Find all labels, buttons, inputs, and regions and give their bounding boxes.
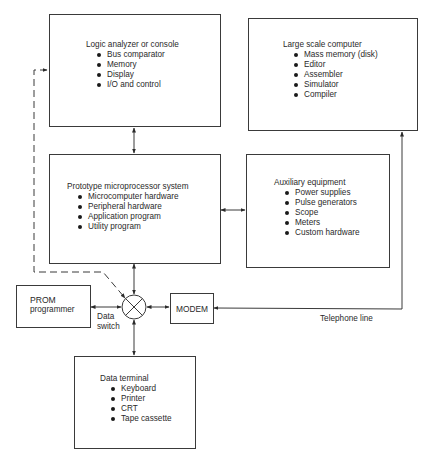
auxiliary-equipment-block: Auxiliary equipment Power supplies Pulse… — [246, 154, 390, 268]
large-scale-computer-list: Mass memory (disk) Editor Assembler Simu… — [283, 50, 417, 100]
list-item: Simulator — [293, 80, 417, 90]
list-item: Scope — [284, 208, 389, 218]
modem-block: MODEM — [170, 293, 214, 324]
data-terminal-list: Keyboard Printer CRT Tape cassette — [100, 384, 195, 424]
list-item: Assembler — [293, 70, 417, 80]
list-item: Compiler — [293, 90, 417, 100]
auxiliary-equipment-list: Power supplies Pulse generators Scope Me… — [274, 188, 389, 238]
list-item: Printer — [110, 394, 195, 404]
logic-analyzer-block: Logic analyzer or console Bus comparator… — [49, 14, 221, 127]
prom-line2: programmer — [30, 305, 90, 315]
list-item: Editor — [293, 60, 417, 70]
prototype-system-list: Microcomputer hardware Peripheral hardwa… — [67, 192, 220, 232]
list-item: Utility program — [77, 222, 220, 232]
large-scale-computer-block: Large scale computer Mass memory (disk) … — [248, 18, 418, 131]
logic-analyzer-list: Bus comparator Memory Display I/O and co… — [86, 50, 220, 90]
list-item: CRT — [110, 404, 195, 414]
modem-title: MODEM — [176, 304, 208, 314]
list-item: Bus comparator — [96, 50, 220, 60]
data-terminal-block: Data terminal Keyboard Printer CRT Tape … — [74, 356, 196, 449]
list-item: Keyboard — [110, 384, 195, 394]
list-item: Power supplies — [284, 188, 389, 198]
telephone-line-label: Telephone line — [320, 314, 373, 324]
list-item: Custom hardware — [284, 228, 389, 238]
logic-analyzer-title: Logic analyzer or console — [86, 40, 220, 50]
list-item: Application program — [77, 212, 220, 222]
list-item: Mass memory (disk) — [293, 50, 417, 60]
list-item: Meters — [284, 218, 389, 228]
list-item: Microcomputer hardware — [77, 192, 220, 202]
data-switch-icon — [122, 295, 146, 319]
list-item: Pulse generators — [284, 198, 389, 208]
list-item: Peripheral hardware — [77, 202, 220, 212]
list-item: Memory — [96, 60, 220, 70]
data-terminal-title: Data terminal — [100, 374, 195, 384]
auxiliary-equipment-title: Auxiliary equipment — [274, 178, 389, 188]
list-item: Tape cassette — [110, 414, 195, 424]
list-item: Display — [96, 70, 220, 80]
prototype-system-block: Prototype microprocessor system Microcom… — [49, 154, 221, 264]
list-item: I/O and control — [96, 80, 220, 90]
large-scale-computer-title: Large scale computer — [283, 40, 417, 50]
prom-line1: PROM — [30, 295, 90, 305]
prom-programmer-block: PROM programmer — [16, 285, 91, 328]
data-switch-label-line1: Data — [97, 312, 114, 322]
data-switch-label-line2: switch — [97, 322, 120, 332]
prototype-system-title: Prototype microprocessor system — [67, 182, 220, 192]
